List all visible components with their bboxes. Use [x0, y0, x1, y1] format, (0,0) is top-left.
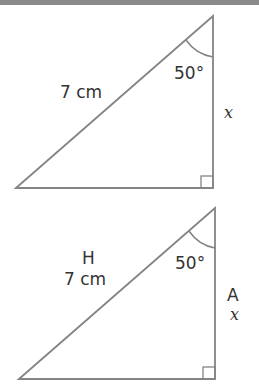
angle-arc-icon	[189, 231, 215, 248]
hypotenuse-length-label: 7 cm	[60, 82, 102, 102]
hypotenuse-name-label: H	[82, 248, 95, 268]
trig-diagram: 7 cm 50° x H 7 cm 50° A x	[0, 0, 259, 385]
hypotenuse-length-label: 7 cm	[64, 269, 106, 289]
side-variable-label: x	[230, 305, 239, 324]
angle-label: 50°	[174, 63, 204, 83]
side-variable-label: x	[224, 103, 233, 122]
side-name-label: A	[227, 285, 239, 305]
triangle-2: H 7 cm 50° A x	[19, 208, 239, 379]
triangle-1: 7 cm 50° x	[16, 16, 233, 188]
angle-label: 50°	[175, 253, 205, 273]
right-angle-marker-icon	[201, 176, 213, 188]
triangle-2-outline	[19, 208, 215, 379]
angle-arc-icon	[186, 40, 213, 57]
triangle-1-outline	[16, 16, 213, 188]
right-angle-marker-icon	[203, 367, 215, 379]
